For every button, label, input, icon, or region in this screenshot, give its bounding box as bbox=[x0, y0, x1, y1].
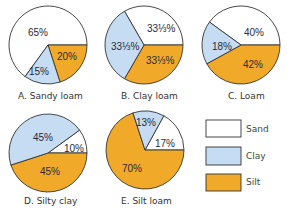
legend-label-clay: Clay bbox=[246, 151, 266, 161]
legend-label-silt: Silt bbox=[246, 177, 261, 187]
label-a-clay: 15% bbox=[29, 66, 49, 77]
legend-swatch-sand bbox=[206, 120, 241, 137]
label-e-clay: 13% bbox=[136, 117, 156, 128]
soil-pie-charts: 65% 15% 20% A. Sandy loam 33⅓% 33⅓% 33⅓%… bbox=[0, 0, 287, 215]
label-b-silt: 33⅓% bbox=[146, 55, 174, 66]
label-e-sand: 17% bbox=[155, 138, 175, 149]
label-c-silt: 42% bbox=[243, 59, 263, 70]
label-d-silt: 45% bbox=[40, 166, 60, 177]
caption-d: D. Silty clay bbox=[24, 196, 78, 206]
label-d-clay: 45% bbox=[33, 132, 53, 143]
label-b-clay: 33⅓% bbox=[111, 41, 139, 52]
label-e-silt: 70% bbox=[122, 163, 142, 174]
label-c-sand: 40% bbox=[244, 27, 264, 38]
legend-swatch-silt bbox=[206, 174, 241, 191]
caption-e: E. Silt loam bbox=[121, 196, 172, 206]
label-a-sand: 65% bbox=[28, 27, 48, 38]
caption-c: C. Loam bbox=[228, 91, 265, 101]
legend-swatch-clay bbox=[206, 147, 241, 165]
caption-a: A. Sandy loam bbox=[18, 91, 83, 101]
legend: Sand Clay Silt bbox=[206, 120, 269, 191]
legend-label-sand: Sand bbox=[246, 124, 269, 134]
label-b-sand: 33⅓% bbox=[147, 23, 175, 34]
label-d-sand: 10% bbox=[64, 143, 84, 154]
label-a-silt: 20% bbox=[57, 51, 77, 62]
label-c-clay: 18% bbox=[212, 41, 232, 52]
caption-b: B. Clay loam bbox=[121, 91, 178, 101]
